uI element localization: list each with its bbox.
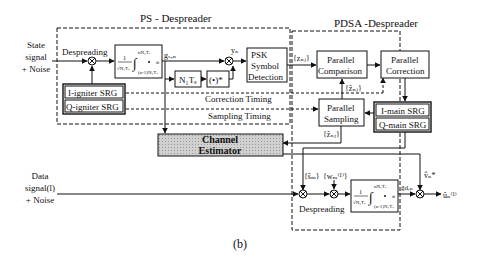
v-n-label: v̂ₙ* — [424, 171, 435, 180]
despreader-block-diagram: PS - Despreader PDSA -Despreader State s… — [0, 0, 487, 263]
svg-text:Parallel: Parallel — [327, 103, 355, 113]
svg-text:Estimator: Estimator — [199, 145, 242, 156]
g-dn-label: g̃d,ₙ — [401, 184, 413, 192]
zhat-sampling-label: {ẑₙⱼ} — [323, 130, 340, 139]
parallel-comparison-block: Parallel Comparison — [317, 51, 367, 78]
svg-text:nN₁Tₑ: nN₁Tₑ — [138, 50, 151, 55]
g-sn-label: gₛ,ₙ — [164, 51, 177, 60]
main-srg-group: I-main SRG Q-main SRG — [374, 102, 431, 132]
svg-text:1: 1 — [359, 189, 362, 195]
correction-timing-label: Correction Timing — [205, 94, 272, 104]
psk-symbol-detection-block: PSK Symbol Detection — [247, 48, 287, 82]
svg-text:signal: signal — [25, 52, 47, 62]
pdsa-code-mixer — [299, 190, 307, 198]
y-n-label: yₙ — [231, 46, 239, 55]
svg-text:Data: Data — [32, 171, 49, 181]
ps-despreading-label: Despreading — [62, 47, 108, 57]
svg-text:(n-1)N₁Tₑ: (n-1)N₁Tₑ — [138, 70, 158, 75]
ps-product-mixer — [225, 57, 233, 65]
delay-block: N₁Tₑ — [175, 71, 201, 87]
svg-text:√N₁Tₑ: √N₁Tₑ — [353, 200, 366, 205]
sampling-timing-label: Sampling Timing — [208, 111, 271, 121]
ps-mixer — [88, 57, 96, 65]
i-igniter-srg: I-igniter SRG — [68, 88, 118, 98]
pdsa-despreading-label: Despreading — [299, 204, 345, 214]
igniter-srg-group: I-igniter SRG Q-igniter SRG — [63, 84, 125, 114]
svg-text:Channel: Channel — [202, 134, 238, 145]
svg-text:Comparison: Comparison — [318, 66, 362, 76]
svg-text:N₁Tₑ: N₁Tₑ — [179, 75, 197, 85]
parallel-sampling-block: Parallel Sampling — [319, 99, 364, 126]
svg-text:Detection: Detection — [248, 72, 283, 82]
svg-text:Parallel: Parallel — [327, 55, 355, 65]
svg-text:PSK: PSK — [251, 50, 268, 60]
svg-text:(n-1)N₁Tₑ: (n-1)N₁Tₑ — [374, 204, 394, 209]
svg-text:State: State — [27, 40, 45, 50]
data-signal-input-label: Data signal(l) + Noise — [25, 171, 55, 205]
i-main-srg: I-main SRG — [381, 106, 425, 116]
ps-integrator-block: 1 √N₁Tₑ ∫ nN₁Tₑ (n-1)N₁Tₑ dt — [115, 45, 162, 78]
svg-text:Symbol: Symbol — [251, 61, 280, 71]
z-nj-label: {zₙⱼ} — [293, 54, 310, 63]
state-signal-input-label: State signal + Noise — [22, 40, 50, 74]
svg-text:Correction: Correction — [386, 66, 425, 76]
conjugate-block: (•)* — [207, 71, 229, 87]
svg-text:1: 1 — [123, 55, 126, 61]
svg-text:nN₁Tₑ: nN₁Tₑ — [374, 184, 387, 189]
u-n-output-label: ûₙ⁽¹⁾ — [443, 191, 457, 200]
pdsa-integrator-block: 1 √N₁Tₑ ∫ nN₁Tₑ (n-1)N₁Tₑ dt — [351, 180, 398, 212]
s-m-label: {ŝₘ} — [304, 172, 320, 181]
channel-estimator-block: Channel Estimator — [158, 134, 283, 156]
pdsa-walsh-mixer — [330, 190, 338, 198]
q-igniter-srg: Q-igniter SRG — [66, 102, 119, 112]
svg-text:+ Noise: + Noise — [22, 64, 50, 74]
q-main-srg: Q-main SRG — [379, 120, 427, 130]
parallel-correction-block: Parallel Correction — [381, 51, 429, 78]
svg-text:signal(l): signal(l) — [25, 183, 55, 193]
svg-text:Sampling: Sampling — [324, 114, 359, 124]
svg-text:+ Noise: + Noise — [26, 195, 54, 205]
svg-text:(•)*: (•)* — [209, 75, 223, 85]
svg-text:Parallel: Parallel — [391, 55, 419, 65]
zhat-comparison-label: {ẑₙⱼ} — [345, 84, 362, 93]
figure-label: (b) — [233, 237, 247, 251]
w-m-label: {wₘ⁽¹⁾} — [323, 172, 348, 181]
ps-despreader-title: PS - Despreader — [140, 12, 212, 24]
svg-text:√N₁Tₑ: √N₁Tₑ — [117, 66, 130, 71]
pdsa-despreader-title: PDSA -Despreader — [334, 17, 418, 29]
pdsa-channel-mixer — [416, 190, 424, 198]
